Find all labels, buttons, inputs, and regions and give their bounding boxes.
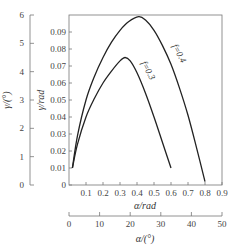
y2-tick-label: 4	[20, 67, 25, 77]
x-tick-label: 0.7	[182, 188, 194, 198]
curve-label-f03: f=0.3	[139, 59, 157, 82]
y-tick-label: 0.07	[50, 61, 66, 71]
chart: 00.010.020.030.040.050.060.070.080.09 01…	[0, 0, 232, 248]
y-tick-label: 0.02	[50, 146, 66, 156]
x-tick-label: 0.5	[148, 188, 160, 198]
y2-tick-label: 0	[20, 180, 25, 190]
y-tick-label: 0.06	[50, 78, 66, 88]
x-tick-label: 0.1	[80, 188, 91, 198]
x2-tick-label: 20	[126, 219, 136, 229]
y2-tick-label: 5	[20, 38, 25, 48]
curve-label-f04: f=0.4	[170, 42, 188, 65]
y-tick-label: 0.05	[50, 95, 66, 105]
y2-tick-label: 6	[20, 10, 25, 20]
y-tick-label: 0.09	[50, 27, 66, 37]
y2-tick-label: 3	[20, 95, 25, 105]
y-axis-title: γ/rad	[35, 89, 46, 111]
x-tick-label: 0.9	[216, 188, 228, 198]
y2-axis-title: γ/(°)	[1, 91, 13, 109]
y2-tick-label: 1	[20, 152, 25, 162]
x2-tick-label: 0	[67, 219, 72, 229]
x-tick-label: 0.4	[131, 188, 143, 198]
x-tick-label: 0.3	[114, 188, 126, 198]
x2-tick-label: 50	[218, 219, 228, 229]
x-tick-label: 0.8	[199, 188, 211, 198]
x2-tick-label: 10	[95, 219, 105, 229]
y-tick-label: 0.04	[50, 112, 66, 122]
y-tick-label: 0.01	[50, 163, 66, 173]
curves	[72, 17, 205, 182]
y2-tick-label: 2	[20, 123, 25, 133]
y-tick-label: 0.03	[50, 129, 66, 139]
y-tick-label: 0	[62, 180, 67, 190]
x-axis-title: α/rad	[134, 200, 157, 211]
y-tick-label: 0.08	[50, 44, 66, 54]
curve-f04	[72, 17, 205, 182]
x-tick-label: 0.6	[165, 188, 177, 198]
x2-tick-label: 30	[156, 219, 166, 229]
x-axis-deg: 01020304050	[67, 212, 227, 229]
x2-tick-label: 40	[187, 219, 197, 229]
x2-axis-title: α/(°)	[136, 233, 155, 245]
y-axis-deg: 0123456	[20, 10, 35, 190]
x-axis-rad: 0.10.20.30.40.50.60.70.80.9	[80, 182, 228, 198]
x-tick-label: 0.2	[97, 188, 108, 198]
